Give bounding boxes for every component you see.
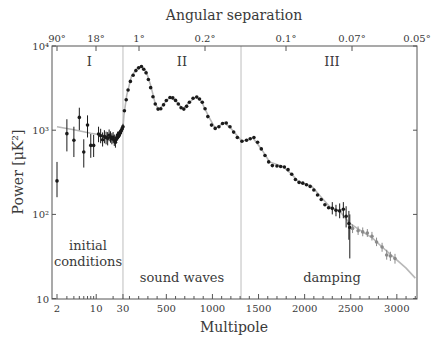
data-point (198, 97, 202, 101)
data-point (389, 254, 393, 258)
data-point (319, 198, 323, 202)
data-point (312, 188, 316, 192)
data-point (385, 253, 389, 257)
data-point (338, 209, 342, 213)
region-name-label: conditions (54, 254, 122, 269)
y-axis-title: Power [μK²] (10, 130, 26, 215)
data-point (366, 231, 370, 235)
data-point (224, 121, 228, 125)
region-name-label: initial (69, 238, 107, 253)
data-point (316, 193, 320, 197)
data-point (327, 206, 331, 210)
data-point (191, 96, 195, 100)
data-point (134, 69, 138, 73)
data-point (147, 78, 151, 82)
top-tick-label: 0.2° (195, 33, 216, 44)
top-tick-label: 1° (133, 33, 144, 44)
data-point (286, 168, 290, 172)
data-point (78, 116, 82, 120)
data-point (174, 99, 178, 103)
y-tick-label: 10⁴ (32, 41, 49, 52)
top-tick-label: 0.1° (276, 33, 297, 44)
y-tick-label: 10³ (32, 125, 49, 136)
top-tick-label: 0.05° (403, 33, 430, 44)
data-point (290, 172, 294, 176)
data-point (188, 100, 192, 104)
region-roman-numeral: II (177, 54, 187, 69)
data-point (217, 125, 221, 129)
data-point (260, 147, 264, 151)
data-point (72, 138, 76, 142)
data-point (124, 98, 128, 102)
data-point (297, 181, 301, 185)
data-point (162, 103, 166, 107)
data-point (393, 257, 397, 261)
axis-labels: 1010²10³10⁴21030500100015002000250030009… (32, 33, 430, 314)
data-point (375, 240, 379, 244)
data-point (203, 107, 207, 111)
data-point (275, 164, 279, 168)
data-point (177, 102, 181, 106)
data-point (308, 185, 312, 189)
data-point (342, 207, 346, 211)
data-points (55, 65, 397, 264)
data-point (165, 99, 169, 103)
data-point (279, 165, 283, 169)
region-name-label: sound waves (140, 270, 224, 285)
data-point (236, 136, 240, 140)
top-tick-label: 18° (87, 33, 105, 44)
data-point (99, 134, 103, 138)
data-point (232, 130, 236, 134)
x-tick-label: 2500 (338, 303, 363, 314)
data-point (294, 178, 298, 182)
y-tick-label: 10² (32, 209, 49, 220)
data-point (185, 105, 189, 109)
data-point (370, 234, 374, 238)
data-point (228, 125, 232, 129)
data-point (200, 100, 204, 104)
region-dividers (123, 46, 241, 299)
data-point (356, 229, 360, 233)
data-point (129, 80, 133, 84)
data-point (323, 203, 327, 207)
cmb-power-spectrum-chart: 1010²10³10⁴21030500100015002000250030009… (0, 0, 435, 344)
data-point (256, 140, 260, 144)
data-point (142, 67, 146, 71)
data-point (248, 137, 252, 141)
region-name-label: damping (303, 270, 361, 285)
x-tick-label: 2000 (292, 303, 317, 314)
data-point (263, 154, 267, 158)
x-tick-label: 10 (90, 303, 103, 314)
x-tick-label: 3000 (384, 303, 409, 314)
data-point (334, 208, 338, 212)
data-point (221, 122, 225, 126)
data-point (252, 136, 256, 140)
x-tick-label: 2 (54, 303, 60, 314)
data-point (210, 123, 214, 127)
data-point (153, 102, 157, 106)
data-point (149, 86, 153, 90)
data-point (361, 230, 365, 234)
data-point (151, 95, 155, 99)
data-point (240, 139, 244, 143)
data-point (65, 132, 69, 136)
data-point (380, 245, 384, 249)
data-point (182, 107, 186, 111)
data-point (121, 125, 125, 129)
data-point (245, 138, 249, 142)
data-point (206, 115, 210, 119)
y-tick-label: 10 (36, 294, 49, 305)
data-point (131, 73, 135, 77)
top-axis-title: Angular separation (165, 7, 302, 23)
data-point (101, 138, 105, 142)
theory-line (57, 67, 415, 279)
data-point (144, 71, 148, 75)
x-tick-label: 500 (157, 303, 176, 314)
theory-curve (57, 67, 415, 279)
data-point (271, 164, 275, 168)
data-point (171, 96, 175, 100)
data-point (82, 150, 86, 154)
x-tick-label: 30 (117, 303, 130, 314)
data-point (123, 109, 127, 113)
data-point (55, 179, 59, 183)
